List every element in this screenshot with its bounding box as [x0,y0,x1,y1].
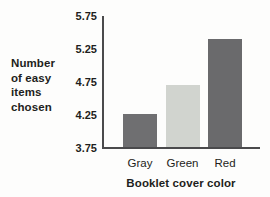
plot-area [102,16,260,149]
x-category-label-red: Red [194,157,256,169]
bar-red [208,39,242,147]
y-tick-label: 3.75 [54,141,97,155]
y-axis-label: Number of easy items chosen [11,56,55,114]
x-axis-title: Booklet cover color [102,177,260,189]
bar-chart-figure: Number of easy items chosen Booklet cove… [0,0,270,197]
y-tick-label: 4.75 [54,75,97,89]
y-tick-label: 5.25 [54,42,97,56]
bar-green [166,85,200,147]
bar-gray [123,114,157,147]
y-tick-label: 4.25 [54,108,97,122]
y-tick-label: 5.75 [54,9,97,23]
